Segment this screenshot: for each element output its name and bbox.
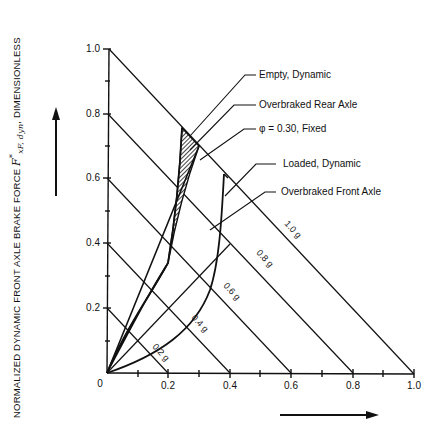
callout-loaded-dynamic: Loaded, Dynamic bbox=[283, 158, 361, 169]
phi-fixed-line bbox=[107, 146, 199, 373]
x-tick-1.0: 1.0 bbox=[407, 380, 421, 391]
empty-dynamic-curve bbox=[107, 128, 182, 373]
y-axis-direction-arrow bbox=[52, 107, 60, 196]
callout-empty-dynamic: Empty, Dynamic bbox=[259, 69, 331, 80]
x-tick-0.4: 0.4 bbox=[223, 380, 237, 391]
x-tick-0.8: 0.8 bbox=[346, 380, 360, 391]
loaded-dynamic-curve bbox=[107, 174, 224, 373]
callout-phi-fixed: φ = 0.30, Fixed bbox=[259, 123, 326, 134]
y-tick-0.6: 0.6 bbox=[86, 172, 100, 183]
g-label-0.6: 0.6 g bbox=[222, 281, 243, 302]
callout-overbraked-front-axle: Overbraked Front Axle bbox=[281, 186, 381, 197]
brake-force-chart: 0 0.2 0.4 0.6 0.8 1.0 0.2 0.4 0.6 0.8 1.… bbox=[0, 0, 443, 436]
y-tick-1.0: 1.0 bbox=[86, 43, 100, 54]
overbraked-rear-region bbox=[168, 128, 199, 263]
x-tick-0.6: 0.6 bbox=[284, 380, 298, 391]
y-tick-0.4: 0.4 bbox=[86, 237, 100, 248]
y-tick-0.2: 0.2 bbox=[86, 302, 100, 313]
origin-label: 0 bbox=[97, 378, 103, 389]
y-tick-0.8: 0.8 bbox=[86, 108, 100, 119]
x-axis-direction-arrow bbox=[280, 411, 379, 419]
callout-overbraked-rear-axle: Overbraked Rear Axle bbox=[259, 99, 358, 110]
g-label-0.8: 0.8 g bbox=[255, 248, 276, 269]
x-tick-0.2: 0.2 bbox=[161, 380, 175, 391]
leader-overbraked-front bbox=[210, 192, 276, 230]
g-label-0.4: 0.4 g bbox=[190, 313, 211, 334]
